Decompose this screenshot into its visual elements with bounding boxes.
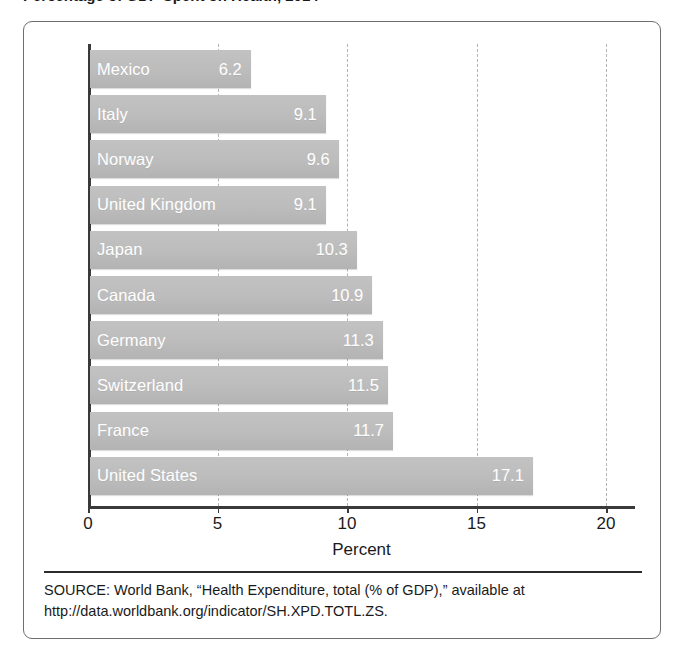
source-divider [44, 571, 642, 573]
bar-value-label: 9.1 [294, 195, 317, 214]
bar[interactable]: Italy9.1 [90, 95, 326, 133]
bar-row[interactable]: Canada10.9 [90, 276, 372, 314]
bar-value-label: 11.3 [343, 331, 374, 350]
bar[interactable]: Japan10.3 [90, 231, 357, 269]
x-tick-20 [606, 506, 608, 513]
bar[interactable]: Canada10.9 [90, 276, 372, 314]
bar-value-label: 9.6 [307, 150, 330, 169]
x-tick-label-5: 5 [213, 514, 222, 534]
x-tick-0 [88, 506, 90, 513]
source-line-1: SOURCE: World Bank, “Health Expenditure,… [44, 580, 646, 601]
bar-row[interactable]: Germany11.3 [90, 321, 383, 359]
bar-value-label: 6.2 [219, 60, 242, 79]
x-tick-15 [477, 506, 479, 513]
bar-row[interactable]: Mexico6.2 [90, 50, 251, 88]
bar-category-label: United States [97, 466, 197, 485]
bar-row[interactable]: Italy9.1 [90, 95, 326, 133]
figure-title-text: Percentage of GDP Spent on Health, 2014 [23, 0, 643, 5]
x-tick-label-10: 10 [338, 514, 357, 534]
bar-row[interactable]: United States17.1 [90, 457, 533, 495]
x-axis-line [88, 506, 635, 509]
chart-plot-area: Mexico6.2Italy9.1Norway9.6United Kingdom… [88, 44, 633, 506]
bar-value-label: 10.9 [331, 286, 363, 305]
figure-frame: Mexico6.2Italy9.1Norway9.6United Kingdom… [23, 21, 661, 639]
x-tick-5 [218, 506, 220, 513]
bar[interactable]: France11.7 [90, 412, 393, 450]
bar-row[interactable]: Japan10.3 [90, 231, 357, 269]
bar[interactable]: Switzerland11.5 [90, 366, 388, 404]
bar-row[interactable]: Norway9.6 [90, 140, 339, 178]
bar[interactable]: Germany11.3 [90, 321, 383, 359]
bar[interactable]: United States17.1 [90, 457, 533, 495]
bar-category-label: Germany [97, 331, 166, 350]
source-line-2: http://data.worldbank.org/indicator/SH.X… [44, 601, 646, 622]
bar-value-label: 11.5 [348, 376, 379, 395]
bar-value-label: 9.1 [294, 105, 317, 124]
bar[interactable]: Mexico6.2 [90, 50, 251, 88]
bar-category-label: Italy [97, 105, 128, 124]
bar-category-label: United Kingdom [97, 195, 216, 214]
bar-value-label: 11.7 [353, 421, 384, 440]
bar-category-label: Switzerland [97, 376, 183, 395]
x-tick-10 [347, 506, 349, 513]
bar-category-label: Japan [97, 240, 142, 259]
bar-category-label: Mexico [97, 60, 150, 79]
bar[interactable]: United Kingdom9.1 [90, 186, 326, 224]
bar-row[interactable]: Switzerland11.5 [90, 366, 388, 404]
x-axis-title: Percent [88, 540, 635, 560]
bar-value-label: 17.1 [492, 466, 524, 485]
source-note: SOURCE: World Bank, “Health Expenditure,… [44, 580, 646, 622]
bar-category-label: France [97, 421, 149, 440]
bar-category-label: Norway [97, 150, 154, 169]
bar-series: Mexico6.2Italy9.1Norway9.6United Kingdom… [90, 44, 633, 506]
bar-category-label: Canada [97, 286, 155, 305]
bar-row[interactable]: France11.7 [90, 412, 393, 450]
bar-row[interactable]: United Kingdom9.1 [90, 186, 326, 224]
bar-value-label: 10.3 [316, 240, 348, 259]
figure-title-clipped: Percentage of GDP Spent on Health, 2014 [23, 0, 643, 5]
x-tick-label-15: 15 [467, 514, 486, 534]
bar[interactable]: Norway9.6 [90, 140, 339, 178]
x-tick-label-20: 20 [597, 514, 616, 534]
x-tick-label-0: 0 [83, 514, 92, 534]
